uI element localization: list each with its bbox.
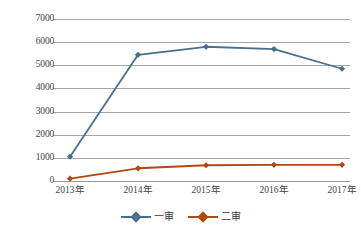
x-axis-tick-label: 2015年 <box>192 184 221 196</box>
data-point-marker <box>135 165 141 171</box>
y-axis-tick-label: 2000 <box>8 130 54 140</box>
x-axis-labels: 2013年2014年2015年2016年2017年 <box>58 184 350 200</box>
gridline <box>58 181 350 182</box>
y-axis-tick-label: 5000 <box>8 60 54 70</box>
legend-swatch <box>121 211 151 222</box>
x-axis-tick-label: 2017年 <box>328 184 357 196</box>
y-axis-tick-label: 1000 <box>8 153 54 163</box>
legend-label: 二审 <box>221 211 241 222</box>
data-point-marker <box>203 162 209 168</box>
y-axis-tick-label: 0 <box>8 176 54 186</box>
legend-diamond-icon <box>197 211 208 222</box>
legend-item[interactable]: 二审 <box>188 211 241 222</box>
data-point-marker <box>203 44 209 50</box>
series-layer <box>58 19 350 181</box>
legend-label: 一审 <box>154 211 174 222</box>
data-point-marker <box>67 176 73 182</box>
y-axis-labels: 01000200030004000500060007000 <box>4 19 54 181</box>
series-line <box>70 47 342 157</box>
y-axis-tick-label: 7000 <box>8 14 54 24</box>
y-axis-tick-label: 4000 <box>8 83 54 93</box>
x-axis-tick-label: 2016年 <box>260 184 289 196</box>
plot-area <box>58 19 350 181</box>
data-point-marker <box>339 66 345 72</box>
legend-item[interactable]: 一审 <box>121 211 174 222</box>
data-point-marker <box>339 162 345 168</box>
y-axis-tick-label: 3000 <box>8 107 54 117</box>
chart-legend: 一审二审 <box>0 206 361 226</box>
x-axis-tick-label: 2013年 <box>56 184 85 196</box>
x-axis-tick-label: 2014年 <box>124 184 153 196</box>
legend-diamond-icon <box>130 211 141 222</box>
y-axis-tick-label: 6000 <box>8 37 54 47</box>
data-point-marker <box>271 46 277 52</box>
line-chart: 01000200030004000500060007000 2013年2014年… <box>0 0 361 234</box>
legend-swatch <box>188 211 218 222</box>
data-point-marker <box>271 162 277 168</box>
